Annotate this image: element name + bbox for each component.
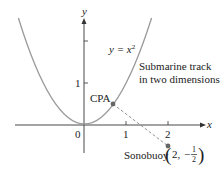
parabola-curve [18, 18, 151, 124]
y-axis-arrow-icon [82, 18, 87, 24]
x-tick-label-2: 2 [165, 128, 171, 140]
cpa-label: CPA [90, 92, 110, 104]
sonobuoy-label: Sonobuoy [124, 149, 169, 161]
x-axis-arrow-icon [200, 123, 206, 128]
sonobuoy-coord-x: 2, [172, 148, 181, 160]
sonobuoy-right-paren: ) [198, 144, 204, 166]
x-tick-label-1: 1 [123, 128, 129, 140]
submarine-cpa-diagram: y x 0 1 2 1 y = x2 Submarine track in tw… [0, 0, 221, 174]
y-axis-label: y [81, 5, 87, 17]
sonobuoy-frac-den: 2 [192, 155, 196, 164]
y-tick-label-1: 1 [75, 77, 81, 89]
sonobuoy-left-paren: ( [165, 144, 171, 166]
sonobuoy-coord-minus: − [184, 148, 190, 160]
origin-label: 0 [75, 128, 81, 140]
sonobuoy-frac-num: 1 [192, 145, 196, 154]
cpa-point [111, 102, 116, 107]
curve-description-line2: in two dimensions [139, 73, 220, 85]
curve-equation: y = x2 [108, 43, 136, 55]
x-axis-label: x [206, 118, 212, 130]
curve-description-line1: Submarine track [139, 60, 212, 72]
